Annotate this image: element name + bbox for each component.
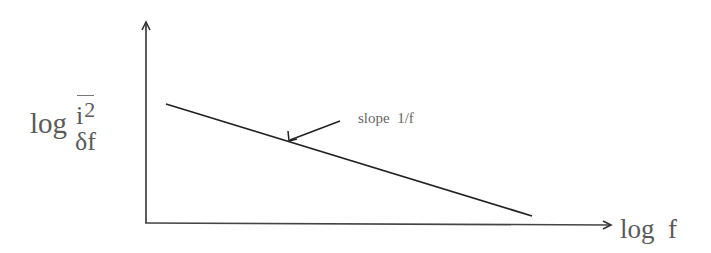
noise-line [166, 104, 532, 216]
annotation-arrowhead-icon [288, 131, 297, 141]
y-axis-label: log i2 δf [30, 96, 96, 156]
slope-annotation: slope 1/f [358, 110, 414, 127]
annotation-arrow [290, 121, 340, 140]
x-axis [145, 223, 611, 225]
one-over-f-noise-diagram [0, 0, 711, 253]
y-axis-label-numerator: i2 [76, 97, 95, 129]
y-axis-label-superscript: 2 [84, 97, 95, 122]
y-axis-label-fraction: i2 δf [75, 97, 96, 155]
x-axis-label: log f [620, 214, 677, 245]
y-axis-label-log: log [30, 109, 67, 138]
y-axis-label-denominator: δf [75, 129, 96, 155]
